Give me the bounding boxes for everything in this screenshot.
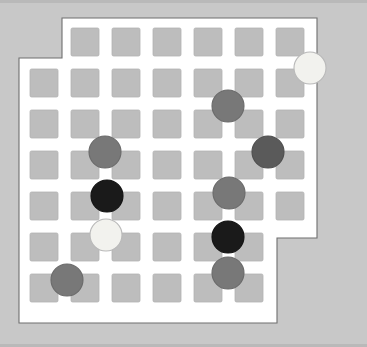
board-cell-c6-r2[interactable]: [276, 110, 304, 138]
board-cell-c3-r2[interactable]: [153, 110, 181, 138]
board-cell-c3-r5[interactable]: [153, 233, 181, 261]
board-cell-c3-r0[interactable]: [153, 28, 181, 56]
piece-black-left[interactable]: [91, 180, 123, 212]
piece-gray-bottom-left[interactable]: [51, 264, 83, 296]
piece-gray-right-mid[interactable]: [213, 177, 245, 209]
piece-white-left[interactable]: [90, 219, 122, 251]
board-cell-c1-r1[interactable]: [71, 69, 99, 97]
board-cell-c3-r1[interactable]: [153, 69, 181, 97]
board-cell-c0-r4[interactable]: [30, 192, 58, 220]
board-cell-c3-r3[interactable]: [153, 151, 181, 179]
board-cell-c5-r0[interactable]: [235, 28, 263, 56]
board-cell-c2-r0[interactable]: [112, 28, 140, 56]
board-cell-c1-r2[interactable]: [71, 110, 99, 138]
board-cell-c2-r2[interactable]: [112, 110, 140, 138]
game-board[interactable]: [0, 0, 367, 347]
board-cell-c6-r4[interactable]: [276, 192, 304, 220]
board-cell-c2-r6[interactable]: [112, 274, 140, 302]
piece-black-right[interactable]: [212, 221, 244, 253]
piece-dark-gray-right[interactable]: [252, 136, 284, 168]
board-cell-c0-r5[interactable]: [30, 233, 58, 261]
board-cell-c5-r1[interactable]: [235, 69, 263, 97]
piece-gray-upper-right[interactable]: [212, 90, 244, 122]
board-cell-c3-r4[interactable]: [153, 192, 181, 220]
board-cell-c1-r0[interactable]: [71, 28, 99, 56]
board-cell-c2-r1[interactable]: [112, 69, 140, 97]
piece-gray-right-low[interactable]: [212, 257, 244, 289]
piece-gray-left-upper[interactable]: [89, 136, 121, 168]
piece-white-top-right[interactable]: [294, 52, 326, 84]
board-cell-c0-r3[interactable]: [30, 151, 58, 179]
board-cell-c6-r0[interactable]: [276, 28, 304, 56]
board-cell-c3-r6[interactable]: [153, 274, 181, 302]
board-cell-c4-r0[interactable]: [194, 28, 222, 56]
game-stage: [0, 0, 367, 347]
board-cell-c4-r1[interactable]: [194, 69, 222, 97]
board-cell-c0-r1[interactable]: [30, 69, 58, 97]
board-cell-c4-r3[interactable]: [194, 151, 222, 179]
board-cell-c0-r2[interactable]: [30, 110, 58, 138]
